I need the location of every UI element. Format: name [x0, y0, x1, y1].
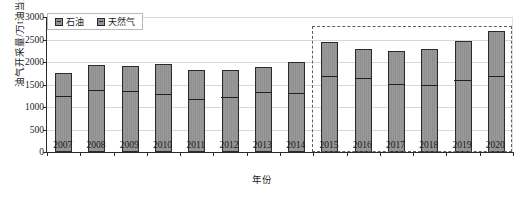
y-axis-tick-label: 2500 [14, 35, 44, 44]
bar-2008 [88, 65, 105, 152]
x-axis-tick [247, 152, 248, 156]
gridline [47, 62, 513, 63]
x-axis-title: 年份 [0, 172, 523, 186]
y-axis-tick [43, 130, 47, 131]
gridline [47, 107, 513, 108]
x-axis-tick [147, 152, 148, 156]
x-axis-tick [380, 152, 381, 156]
bar-segment-divider [421, 85, 438, 86]
bar-segment-divider [221, 97, 238, 98]
bar-2018 [421, 49, 438, 152]
x-axis-tick [313, 152, 314, 156]
x-axis-tick [347, 152, 348, 156]
bar-segment-divider [155, 94, 172, 95]
x-axis-tick [280, 152, 281, 156]
legend-swatch-icon [55, 18, 63, 26]
y-axis-tick-label: 1000 [14, 103, 44, 112]
x-axis-tick [413, 152, 414, 156]
y-axis-tick [43, 107, 47, 108]
y-axis-tick-label: 1500 [14, 80, 44, 89]
bar-segment-divider [288, 93, 305, 94]
y-axis-tick-label: 0 [14, 148, 44, 157]
gridline [47, 130, 513, 131]
bar-segment-divider [355, 78, 372, 79]
plot-area [46, 17, 513, 153]
legend-label: 石油 [66, 15, 84, 28]
legend-entry-0: 石油 [55, 15, 84, 28]
x-axis-tick-label: 2020 [475, 140, 515, 150]
bar-2010 [155, 64, 172, 152]
legend-entry-1: 天然气 [97, 15, 135, 28]
y-axis-tick [43, 62, 47, 63]
y-axis-tick-label: 2000 [14, 58, 44, 67]
bar-2020 [488, 31, 505, 152]
bar-segment-divider [122, 91, 139, 92]
legend-label: 天然气 [108, 15, 135, 28]
oil-gas-production-chart: 油气开采量/万t油当量 050010001500200025003000 石油天… [0, 0, 523, 203]
bar-segment-divider [454, 80, 471, 81]
bar-segment-divider [88, 90, 105, 91]
gridline [47, 40, 513, 41]
x-axis-tick [213, 152, 214, 156]
bar-segment-divider [321, 76, 338, 77]
bar-2017 [388, 51, 405, 152]
legend-swatch-icon [97, 18, 105, 26]
y-axis-tick [43, 85, 47, 86]
x-axis-tick [446, 152, 447, 156]
bar-segment-divider [388, 84, 405, 85]
bar-segment-divider [255, 92, 272, 93]
bar-2019 [455, 41, 472, 152]
x-axis-tick [513, 152, 514, 156]
y-axis-tick [43, 40, 47, 41]
y-axis-tick-label: 500 [14, 125, 44, 134]
bar-2015 [321, 42, 338, 152]
bar-segment-divider [188, 99, 205, 100]
x-axis-tick [480, 152, 481, 156]
x-axis-tick [180, 152, 181, 156]
bar-segment-divider [55, 96, 72, 97]
x-axis-tick [47, 152, 48, 156]
x-axis-tick [114, 152, 115, 156]
y-axis-tick-label: 3000 [14, 13, 44, 22]
bar-segment-divider [488, 76, 505, 77]
bar-2014 [288, 62, 305, 152]
chart-legend: 石油天然气 [47, 13, 143, 30]
gridline [47, 85, 513, 86]
x-axis-tick [80, 152, 81, 156]
bar-2016 [355, 49, 372, 152]
